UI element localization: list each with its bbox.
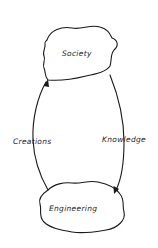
edge-creations: Creations [13,79,52,190]
engineering-label: Engineering [49,204,97,213]
creations-arrow-line [33,82,48,190]
knowledge-arrowhead-icon [114,186,120,194]
knowledge-arrow-line [110,75,124,190]
knowledge-label: Knowledge [102,135,146,144]
society-engineering-cycle-diagram: Society Engineering Knowledge Creations [0,0,158,248]
society-label: Society [62,49,92,58]
creations-label: Creations [13,137,52,146]
node-engineering: Engineering [39,181,124,232]
node-society: Society [43,26,117,80]
edge-knowledge: Knowledge [102,75,146,194]
